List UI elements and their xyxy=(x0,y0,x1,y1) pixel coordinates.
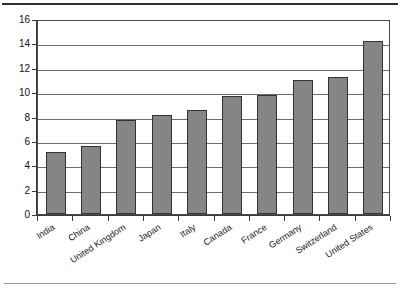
y-axis-tick xyxy=(32,191,36,192)
top-divider-rule xyxy=(2,3,398,5)
y-axis-tick xyxy=(32,93,36,94)
x-axis-category-label-text: Canada xyxy=(201,222,233,248)
x-axis-tick xyxy=(72,216,73,221)
y-axis-tick-label: 14 xyxy=(4,39,30,49)
y-axis-tick xyxy=(32,118,36,119)
bar xyxy=(187,110,207,214)
bar xyxy=(257,95,277,214)
x-axis-category-label-text: China xyxy=(67,222,92,243)
y-axis-tick xyxy=(32,20,36,21)
x-axis-category-label: China xyxy=(67,222,92,243)
y-axis-tick xyxy=(32,166,36,167)
plot-area xyxy=(37,20,390,215)
x-axis-tick xyxy=(355,216,356,221)
bar xyxy=(363,41,383,214)
x-axis-tick xyxy=(143,216,144,221)
x-axis-tick xyxy=(319,216,320,221)
chart-figure: 0246810121416 IndiaChinaUnited KingdomJa… xyxy=(0,0,402,296)
x-axis-category-label: Italy xyxy=(178,222,197,239)
x-axis-category-label-text: France xyxy=(239,222,268,246)
y-axis-tick-labels: 0246810121416 xyxy=(0,0,30,296)
x-axis-category-label-text: Japan xyxy=(136,222,162,244)
x-axis-tick xyxy=(37,216,38,221)
x-axis-category-label: Japan xyxy=(136,222,162,244)
x-axis-tick xyxy=(214,216,215,221)
y-axis-tick-label: 6 xyxy=(4,137,30,147)
y-axis-tick xyxy=(32,215,36,216)
x-axis-category-label: India xyxy=(35,222,57,241)
x-axis-tick xyxy=(390,216,391,221)
y-axis-tick-label: 16 xyxy=(4,15,30,25)
bar xyxy=(152,115,172,214)
y-axis-tick-label: 4 xyxy=(4,161,30,171)
bar xyxy=(222,96,242,214)
y-axis-tick-label: 2 xyxy=(4,186,30,196)
bar xyxy=(116,120,136,214)
x-axis-tick xyxy=(108,216,109,221)
x-axis-category-label: France xyxy=(239,222,268,246)
x-axis-category-label-text: Italy xyxy=(178,222,197,239)
y-axis-tick xyxy=(32,142,36,143)
x-axis-tick xyxy=(178,216,179,221)
bottom-divider-rule xyxy=(4,283,396,284)
x-axis-tick xyxy=(284,216,285,221)
x-axis-tick xyxy=(249,216,250,221)
x-axis-category-label: Canada xyxy=(201,222,233,248)
y-axis-tick-label: 10 xyxy=(4,88,30,98)
x-axis-category-label-text: India xyxy=(35,222,57,241)
bar xyxy=(328,77,348,214)
y-axis-tick-label: 0 xyxy=(4,210,30,220)
y-axis-tick xyxy=(32,69,36,70)
bar xyxy=(81,146,101,214)
y-axis-tick-label: 12 xyxy=(4,64,30,74)
y-axis-tick-label: 8 xyxy=(4,113,30,123)
y-axis-tick xyxy=(32,44,36,45)
bar xyxy=(46,152,66,214)
bar-series xyxy=(38,21,389,214)
bar xyxy=(293,80,313,214)
